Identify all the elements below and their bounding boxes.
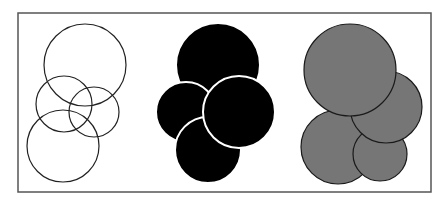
outline-circle-2 [36, 76, 92, 132]
outline-circles-group [27, 24, 126, 182]
circle-overlap-diagram [0, 0, 448, 200]
gray-circle-4 [304, 24, 396, 116]
gray-circles-group [301, 24, 422, 184]
outline-circle-4 [27, 110, 99, 182]
outline-circle-1 [44, 24, 126, 106]
black-circle-4 [203, 76, 275, 148]
black-circles-group [156, 23, 275, 183]
